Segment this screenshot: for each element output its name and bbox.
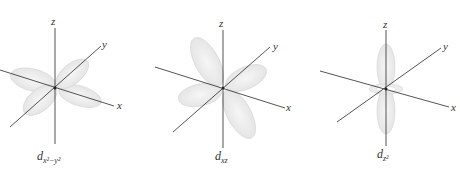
- panel-dx2-y2: z y x dx²−y²: [0, 15, 122, 165]
- z-axis-label: z: [218, 17, 224, 29]
- orbital-caption: dx²−y²: [37, 149, 61, 165]
- x-axis: [0, 70, 114, 106]
- origin: [222, 87, 225, 90]
- orbital-caption: dz²: [377, 147, 389, 163]
- orbital-caption: dxz: [215, 149, 229, 165]
- panel-dxz: z y x dxz: [155, 17, 291, 165]
- y-axis-label: y: [101, 38, 107, 50]
- y-axis-label: y: [272, 40, 278, 52]
- z-axis-label: z: [50, 15, 56, 27]
- d-orbitals-diagram: z y x dx²−y² z y x dxz z y: [0, 0, 460, 182]
- z-axis-label: z: [382, 18, 388, 30]
- x-axis-label: x: [450, 101, 456, 113]
- y-axis-label: y: [442, 40, 448, 52]
- x-axis-label: x: [116, 99, 122, 111]
- x-axis-label: x: [285, 101, 291, 113]
- origin: [54, 87, 57, 90]
- origin: [385, 88, 388, 91]
- panel-dz2: z y x dz²: [320, 18, 456, 163]
